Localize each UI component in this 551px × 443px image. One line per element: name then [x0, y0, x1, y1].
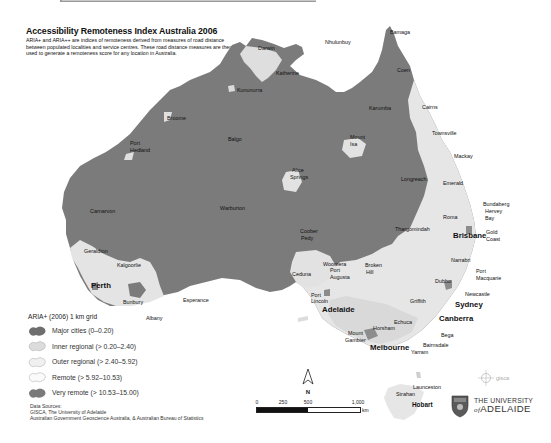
label-narrabri: Narrabri	[451, 257, 470, 263]
label-gold-2: Coast	[486, 236, 501, 242]
label-horsham: Horsham	[373, 325, 395, 331]
label-canberra: Canberra	[439, 314, 474, 323]
label-strahan: Strahan	[396, 391, 415, 397]
label-alice-2: Springs	[290, 174, 309, 180]
scale-bar: 0 250 500 1,000 km	[256, 399, 386, 413]
label-sydney: Sydney	[455, 300, 483, 309]
label-roma: Roma	[443, 214, 457, 220]
crosshair-icon	[478, 370, 494, 386]
north-label: N	[301, 389, 315, 395]
label-bunbury: Bunbury	[123, 299, 143, 305]
label-bega: Bega	[441, 332, 454, 338]
label-launceston: Launceston	[413, 384, 441, 390]
north-arrow: N	[301, 368, 315, 395]
kangaroo-island	[298, 316, 308, 322]
swatch-inner-regional-icon	[28, 340, 48, 352]
label-coen: Coen	[397, 67, 410, 73]
data-sources: Data Sources: GISCA, The University of A…	[30, 403, 203, 422]
legend-item-major-cities: Major cities (0–0.20)	[28, 323, 139, 339]
label-adelaide: Adelaide	[322, 305, 355, 314]
label-broome: Broome	[167, 115, 186, 121]
label-kununurra: Kununurra	[237, 87, 262, 93]
north-arrow-icon	[301, 368, 315, 386]
tasmania-islet	[416, 372, 421, 378]
label-cairns: Cairns	[422, 104, 438, 110]
label-esperance: Esperance	[183, 297, 209, 303]
university-logo: THE UNIVERSITY ofADELAIDE	[450, 394, 533, 418]
legend-item-inner-regional: Inner regional (> 0.20–2.40)	[28, 339, 139, 355]
swatch-very-remote-icon	[28, 387, 48, 399]
gisca-logo: gisca	[478, 370, 509, 386]
label-dubbo: Dubbo	[435, 278, 451, 284]
label-warburton: Warburton	[220, 205, 245, 211]
label-port-lincoln-2: Lincoln	[311, 298, 328, 304]
label-alice-1: Alice	[292, 167, 304, 173]
label-bamaga: Bamaga	[390, 29, 410, 35]
legend-item-outer-regional: Outer regional (> 2.40–5.92)	[28, 354, 139, 370]
label-townsville: Townsville	[432, 130, 457, 136]
label-thargomindah: Thargomindah	[395, 226, 430, 232]
label-port-macq-1: Port	[476, 268, 486, 274]
scale-bar-graphic	[256, 407, 361, 413]
label-hobart: Hobart	[412, 401, 433, 408]
label-coober-2: Pedy	[301, 235, 314, 241]
gisca-text: gisca	[496, 375, 509, 381]
label-echuca: Echuca	[394, 319, 412, 325]
legend-item-remote: Remote (> 5.92–10.53)	[28, 370, 139, 386]
legend-label: Inner regional (> 0.20–2.40)	[52, 343, 136, 350]
label-port-augusta-1: Port	[330, 267, 340, 273]
label-nhulunbuy: Nhulunbuy	[325, 39, 351, 45]
label-ceduna: Ceduna	[292, 271, 311, 277]
label-port-hedland-2: Hedland	[130, 147, 150, 153]
swatch-major-cities-icon	[28, 325, 48, 337]
legend-label: Very remote (> 10.53–15.00)	[52, 389, 139, 396]
label-mount-isa-1: Mount	[350, 134, 365, 140]
label-port-augusta-2: Augusta	[330, 274, 350, 280]
scale-tick-500: 500	[304, 399, 312, 405]
label-mount-isa-2: Isa	[350, 141, 357, 147]
legend-label: Major cities (0–0.20)	[52, 327, 114, 334]
region-adelaide	[324, 289, 330, 296]
swatch-remote-icon	[28, 371, 48, 383]
label-bundaberg: Bundaberg	[483, 201, 509, 207]
university-line-2: ofADELAIDE	[474, 404, 533, 414]
university-name: THE UNIVERSITY ofADELAIDE	[474, 398, 533, 415]
label-mount-gambier-1: Mount	[348, 330, 363, 336]
label-mount-gambier-2: Gambier	[345, 337, 366, 343]
scale-tick-1000: 1,000	[352, 399, 365, 405]
label-carnarvon: Carnarvon	[90, 208, 115, 214]
region-kununurra	[228, 85, 235, 92]
label-emerald: Emerald	[443, 180, 463, 186]
label-katherine: Katherine	[276, 70, 299, 76]
label-bairnsdale: Bairnsdale	[423, 342, 448, 348]
label-albany: Albany	[146, 315, 163, 321]
legend-item-very-remote: Very remote (> 10.53–15.00)	[28, 385, 139, 401]
label-port-macq-2: Macquarie	[476, 275, 501, 281]
legend-label: Outer regional (> 2.40–5.92)	[52, 358, 138, 365]
scale-unit: km	[362, 407, 369, 413]
crest-icon	[450, 394, 470, 418]
label-hervey-1: Hervey	[485, 208, 502, 214]
label-griffith: Griffith	[410, 298, 426, 304]
label-newcastle: Newcastle	[465, 291, 490, 297]
sources-line-2: Australian Government Geoscience Austral…	[30, 415, 203, 421]
label-yarram: Yarram	[411, 349, 429, 355]
label-geraldton: Geraldton	[84, 248, 108, 254]
legend-label: Remote (> 5.92–10.53)	[52, 374, 122, 381]
scale-tick-250: 250	[279, 399, 287, 405]
legend-title: ARIA+ (2006) 1 km grid	[28, 313, 139, 320]
label-kalgoorlie: Kalgoorlie	[117, 262, 141, 268]
swatch-outer-regional-icon	[28, 356, 48, 368]
legend: ARIA+ (2006) 1 km grid Major cities (0–0…	[28, 313, 139, 401]
label-karumba: Karumba	[369, 105, 391, 111]
scale-tick-0: 0	[256, 399, 259, 405]
label-broken-1: Broken	[365, 262, 382, 268]
label-broken-2: Hill	[366, 269, 374, 275]
label-balgo: Balgo	[228, 136, 242, 142]
label-gold-1: Gold	[486, 229, 497, 235]
label-port-hedland-1: Port	[130, 140, 140, 146]
scale-ticks: 0 250 500 1,000	[256, 399, 386, 407]
label-brisbane: Brisbane	[453, 231, 487, 240]
label-perth: Perth	[91, 281, 111, 290]
label-coober-1: Coober	[300, 228, 318, 234]
